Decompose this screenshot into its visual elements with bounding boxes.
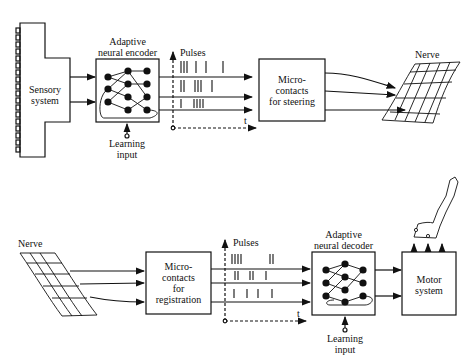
pulse-train-top: [181, 61, 223, 108]
encoder-learning-label: Learninginput: [102, 138, 152, 160]
nerve-top-icon: [382, 62, 460, 123]
decoder-learning-label: Learninginput: [320, 333, 370, 355]
sensory-label: Sensory system: [20, 84, 70, 106]
pulses-label-bottom: Pulses: [233, 237, 259, 248]
arm-icon: [414, 177, 458, 238]
microcontacts-steering-label: Micro-contactsfor steering: [259, 74, 325, 107]
motor-system-label: Motorsystem: [402, 274, 456, 296]
encoder-title: Adaptiveneural encoder: [96, 36, 159, 58]
microcontacts-registration-label: Micro-contactsforregistration: [146, 261, 211, 305]
time-label-bottom: t: [297, 308, 300, 319]
nerve-label-top: Nerve: [415, 49, 439, 60]
neuron-nodes: [104, 67, 366, 305]
time-label-top: t: [244, 115, 247, 126]
nerve-label-bottom: Nerve: [18, 238, 42, 249]
diagram-canvas: [0, 0, 472, 362]
decoder-title: Adaptiveneural decoder: [306, 229, 381, 251]
pulses-label-top: Pulses: [180, 47, 206, 58]
pulse-train-bottom: [232, 254, 273, 298]
